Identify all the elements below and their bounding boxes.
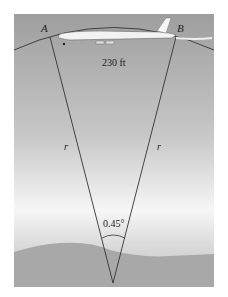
arc-length-diagram: A B 230 ft r r 0.45° [0,0,228,297]
arc-length-label: 230 ft [102,57,126,68]
radius-right-label: r [157,141,161,152]
central-angle-label: 0.45° [103,218,125,229]
point-b-label: B [177,22,184,34]
radius-left-label: r [64,141,68,152]
point-a-label: A [40,22,48,34]
